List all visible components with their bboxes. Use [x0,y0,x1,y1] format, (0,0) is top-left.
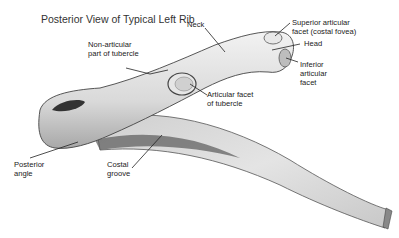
label-articular-facet-tubercle: Articular facet of tubercle [207,90,253,108]
label-non-articular-tubercle: Non-articular part of tubercle [88,40,139,58]
label-head: Head [304,39,322,48]
label-neck: Neck [187,20,204,29]
rib-shaft [95,115,389,228]
label-posterior-angle: Posterior angle [14,160,44,178]
label-costal-groove: Costal groove [107,160,130,178]
label-superior-articular-facet: Superior articular facet (costal fovea) [292,18,356,36]
label-inferior-articular-facet: Inferior articular facet [300,60,327,87]
